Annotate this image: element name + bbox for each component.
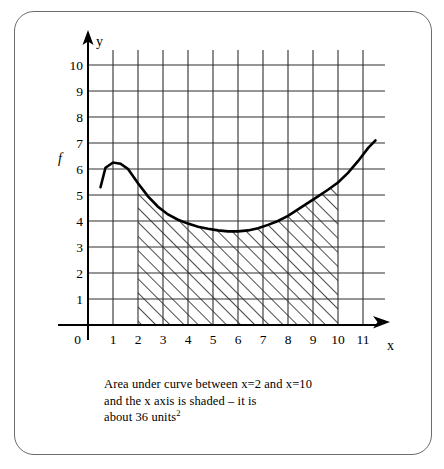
caption-line-1: Area under curve between x=2 and x=10 [104,376,404,393]
x-axis-label: x [387,338,394,353]
y-tick-label: 3 [76,240,83,255]
caption-line-3-text: about 36 units [104,410,176,424]
y-tick-labels: 12345678910 [70,58,84,307]
y-axis [83,30,94,340]
caption: Area under curve between x=2 and x=10 an… [104,376,404,426]
x-tick-label: 4 [185,332,192,347]
x-tick-label: 6 [235,332,242,347]
x-tick-label: 1 [110,332,117,347]
svg-text:0: 0 [74,332,81,347]
y-tick-label: 1 [76,292,83,307]
x-tick-label: 11 [357,332,370,347]
x-tick-label: 3 [160,332,167,347]
x-tick-label: 7 [260,332,267,347]
figure-page: 12345678910 0 1234567891011 y x f Area u… [0,0,444,469]
y-tick-label: 9 [76,84,83,99]
x-tick-label: 9 [310,332,317,347]
y-axis-label: y [96,34,103,49]
y-tick-label: 4 [76,214,83,229]
origin-label: 0 [74,332,81,347]
caption-units-exponent: 2 [176,408,180,418]
y-tick-label: 8 [76,110,83,125]
x-tick-labels: 1234567891011 [110,332,370,347]
x-tick-label: 5 [210,332,217,347]
x-tick-label: 8 [285,332,292,347]
x-tick-label: 2 [135,332,142,347]
y-tick-label: 10 [70,58,84,73]
y-tick-label: 2 [76,266,83,281]
x-tick-label: 10 [331,332,345,347]
y-tick-label: 5 [76,188,83,203]
caption-line-3: about 36 units2 [104,409,404,426]
caption-line-2: and the x axis is shaded – it is [104,393,404,410]
function-label: f [58,151,64,166]
y-tick-label: 6 [76,162,83,177]
y-tick-label: 7 [76,136,83,151]
